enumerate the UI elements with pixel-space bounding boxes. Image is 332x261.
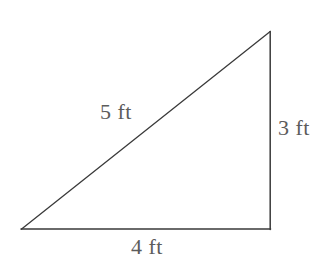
- hypotenuse-length-label: 5 ft: [100, 101, 132, 123]
- hypotenuse-line: [21, 32, 270, 230]
- triangle-outline: [21, 32, 271, 230]
- base-leg-length-label: 4 ft: [131, 236, 163, 258]
- triangle-figure: 5 ft 3 ft 4 ft: [0, 0, 332, 261]
- vertical-leg-length-label: 3 ft: [278, 117, 310, 139]
